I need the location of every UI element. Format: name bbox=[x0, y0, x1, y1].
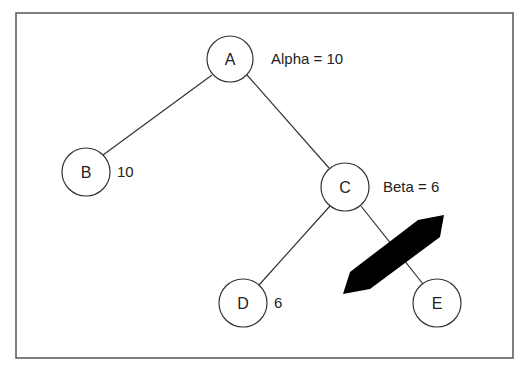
node-d: D bbox=[219, 279, 267, 327]
node-d-annotation: 6 bbox=[274, 294, 282, 311]
node-e: E bbox=[413, 279, 461, 327]
node-c: C bbox=[321, 163, 369, 211]
node-c-label: C bbox=[339, 179, 351, 196]
tree-diagram: A Alpha = 10 B 10 C Beta = 6 D 6 E bbox=[0, 0, 529, 367]
node-e-label: E bbox=[432, 295, 443, 312]
node-a-annotation: Alpha = 10 bbox=[271, 50, 343, 67]
node-b-annotation: 10 bbox=[117, 163, 134, 180]
node-a: A bbox=[207, 36, 253, 82]
node-b: B bbox=[62, 148, 110, 196]
node-b-label: B bbox=[81, 164, 92, 181]
node-c-annotation: Beta = 6 bbox=[383, 178, 439, 195]
node-a-label: A bbox=[225, 51, 236, 68]
node-d-label: D bbox=[237, 295, 249, 312]
